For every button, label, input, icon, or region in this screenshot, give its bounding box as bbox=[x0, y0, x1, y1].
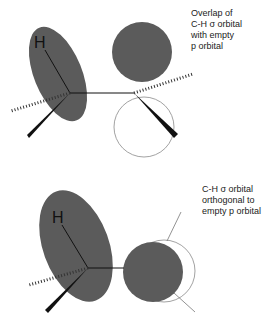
hydrogen-label: H bbox=[52, 209, 64, 226]
panel-overlap: H bbox=[11, 19, 193, 157]
substituent-bond-up bbox=[167, 212, 181, 241]
substituent-bond-down bbox=[174, 293, 195, 312]
caption-line: empty p orbital bbox=[202, 206, 261, 217]
panel-orthogonal: H bbox=[25, 180, 195, 313]
caption-line: C-H σ orbital bbox=[191, 19, 242, 30]
c-h-sigma-orbital bbox=[17, 19, 99, 130]
caption-line: orthogonal to bbox=[202, 195, 261, 206]
caption-orthogonal: C-H σ orbitalorthogonal toempty p orbita… bbox=[202, 184, 261, 217]
c-h-sigma-orbital bbox=[25, 180, 127, 312]
caption-line: p orbital bbox=[191, 41, 242, 52]
caption-line: with empty bbox=[191, 30, 242, 41]
caption-line: Overlap of bbox=[191, 8, 242, 19]
p-orbital-filled-lobe bbox=[112, 22, 172, 82]
hydrogen-label: H bbox=[34, 34, 46, 51]
caption-overlap: Overlap ofC-H σ orbitalwith emptyp orbit… bbox=[191, 8, 242, 52]
caption-line: C-H σ orbital bbox=[202, 184, 261, 195]
